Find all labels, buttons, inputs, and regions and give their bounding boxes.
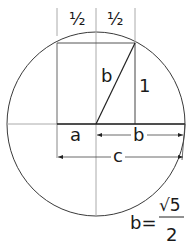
label-half-right: ½	[107, 9, 123, 29]
formula-lhs: b=	[130, 212, 157, 233]
arrow-b-left	[97, 133, 102, 137]
arrow-c-left	[58, 155, 63, 159]
label-one: 1	[139, 75, 150, 96]
label-hyp-b: b	[101, 65, 112, 86]
label-c: c	[113, 145, 123, 166]
arrow-b-right	[178, 133, 183, 137]
formula-denominator: 2	[166, 224, 177, 245]
label-seg-b: b	[133, 124, 144, 145]
formula-numerator: √5	[159, 195, 181, 215]
label-a: a	[70, 124, 81, 145]
diagram-canvas: ½ ½ b 1 a b c b= √5 2	[0, 0, 189, 251]
ext-right	[182, 124, 185, 160]
label-half-left: ½	[69, 9, 85, 29]
